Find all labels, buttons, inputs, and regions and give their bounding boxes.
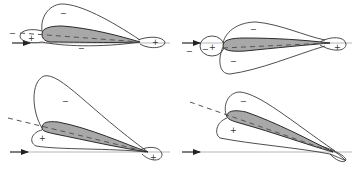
label-le-mid: −	[202, 45, 209, 54]
label-lower: +	[39, 134, 46, 143]
label-upper: −	[250, 25, 257, 34]
label-upper: −	[60, 9, 67, 18]
label-te: +	[150, 153, 157, 162]
panel-bottom-right: − +	[182, 92, 352, 162]
lower-pressure-lobe	[217, 118, 346, 161]
label-le-outer: −	[186, 47, 193, 56]
label-upper: −	[62, 97, 69, 106]
label-te: +	[152, 38, 159, 47]
label-upper: −	[240, 97, 247, 106]
label-lower: +	[230, 126, 237, 135]
label-lower: −	[78, 44, 85, 53]
airfoil-shape	[227, 111, 333, 152]
airfoil-shape	[42, 26, 140, 42]
label-le-outer: −	[9, 29, 16, 38]
label-le-inner: +	[209, 43, 216, 52]
panel-top-right: − − − − + +	[182, 22, 352, 74]
label-te: +	[334, 43, 341, 52]
airfoil-shape	[42, 122, 148, 152]
label-lower: −	[230, 57, 237, 66]
airfoil-pressure-diagram: − − − + + − − − − + +	[0, 0, 362, 173]
label-le-inner: +	[28, 34, 35, 43]
panel-bottom-left: − + +	[8, 76, 170, 162]
panel-top-left: − − − + +	[9, 4, 170, 53]
